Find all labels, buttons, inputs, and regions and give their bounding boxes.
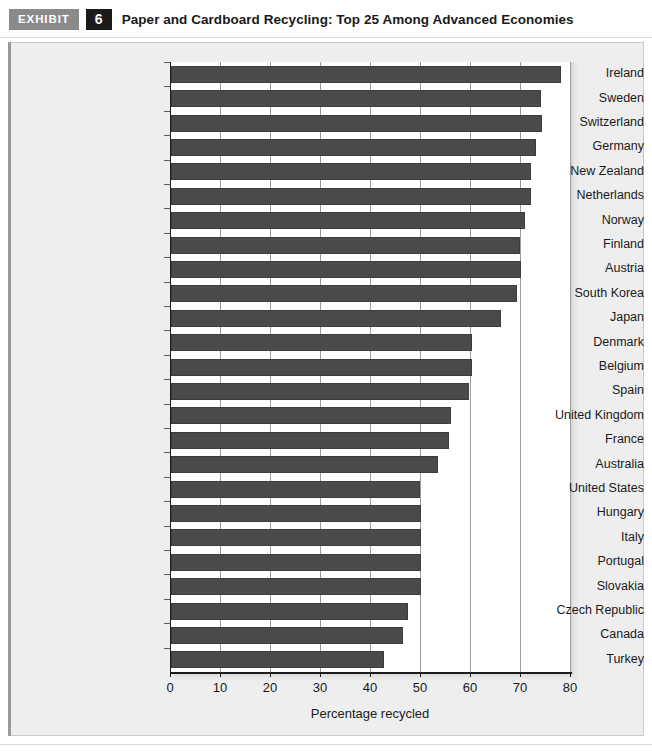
y-axis-tick (164, 160, 170, 161)
category-label: Finland (504, 237, 652, 251)
category-label: Japan (504, 310, 652, 324)
y-axis-tick (164, 379, 170, 380)
bar (171, 554, 421, 571)
x-axis-tick-label: 40 (350, 680, 390, 695)
category-label: Germany (504, 139, 652, 153)
y-axis-tick (164, 306, 170, 307)
y-axis-tick (164, 452, 170, 453)
x-axis-tick-label: 70 (500, 680, 540, 695)
bar (171, 529, 421, 546)
y-axis-tick (164, 135, 170, 136)
category-label: Sweden (504, 91, 652, 105)
category-label: Switzerland (504, 115, 652, 129)
x-axis-tick-label: 20 (250, 680, 290, 695)
category-label: Czech Republic (504, 603, 652, 617)
header-divider (0, 37, 652, 38)
bar (171, 66, 561, 83)
category-label: Australia (504, 457, 652, 471)
category-label: Hungary (504, 505, 652, 519)
bar (171, 261, 521, 278)
bar (171, 456, 438, 473)
category-label: Canada (504, 627, 652, 641)
bar (171, 285, 517, 302)
y-axis-tick (164, 355, 170, 356)
category-label: Denmark (504, 335, 652, 349)
category-label: France (504, 432, 652, 446)
category-label: Italy (504, 530, 652, 544)
y-axis-tick (164, 526, 170, 527)
bar (171, 603, 408, 620)
category-label: Portugal (504, 554, 652, 568)
category-label: Norway (504, 213, 652, 227)
y-axis-tick (164, 623, 170, 624)
y-axis-tick (164, 330, 170, 331)
y-axis-tick (164, 648, 170, 649)
bar (171, 188, 531, 205)
category-label: New Zealand (504, 164, 652, 178)
x-axis-line (170, 672, 572, 674)
category-label: Slovakia (504, 579, 652, 593)
y-axis-tick (164, 428, 170, 429)
category-label: Turkey (504, 652, 652, 666)
category-label: United States (504, 481, 652, 495)
bar (171, 578, 421, 595)
bar (171, 310, 501, 327)
footer-divider (0, 744, 652, 745)
figure-left-edge-accent (8, 42, 11, 736)
y-axis-tick (164, 404, 170, 405)
bar (171, 139, 536, 156)
bar (171, 481, 420, 498)
x-axis-title: Percentage recycled (170, 706, 570, 721)
bar (171, 334, 472, 351)
y-axis-tick (164, 62, 170, 63)
category-label: South Korea (504, 286, 652, 300)
y-axis-tick (164, 111, 170, 112)
category-label: United Kingdom (504, 408, 652, 422)
y-axis-tick (164, 184, 170, 185)
exhibit-number-badge: 6 (86, 9, 112, 30)
x-axis-tick-label: 10 (200, 680, 240, 695)
exhibit-title: Paper and Cardboard Recycling: Top 25 Am… (122, 12, 574, 27)
x-axis-tick-label: 30 (300, 680, 340, 695)
y-axis-tick (164, 86, 170, 87)
bar (171, 383, 469, 400)
category-label: Netherlands (504, 188, 652, 202)
category-label: Austria (504, 261, 652, 275)
bar (171, 90, 541, 107)
y-axis-tick (164, 208, 170, 209)
bar (171, 651, 384, 668)
bar (171, 212, 525, 229)
x-axis-tick-label: 0 (150, 680, 190, 695)
exhibit-tag-label: EXHIBIT (9, 9, 79, 30)
y-axis-tick (164, 501, 170, 502)
y-axis-tick (164, 550, 170, 551)
bar (171, 407, 451, 424)
y-axis-tick (164, 233, 170, 234)
y-axis-tick (164, 599, 170, 600)
x-axis-tick-label: 50 (400, 680, 440, 695)
bar (171, 163, 531, 180)
y-axis-tick (164, 477, 170, 478)
y-axis-tick (164, 282, 170, 283)
bar (171, 432, 449, 449)
exhibit-header: EXHIBIT 6 Paper and Cardboard Recycling:… (0, 0, 652, 38)
bar (171, 627, 403, 644)
bar (171, 359, 472, 376)
y-axis-tick (164, 257, 170, 258)
y-axis-tick (164, 574, 170, 575)
bar (171, 505, 421, 522)
category-label: Belgium (504, 359, 652, 373)
x-axis-tick-label: 80 (550, 680, 590, 695)
category-label: Spain (504, 383, 652, 397)
x-axis-tick-label: 60 (450, 680, 490, 695)
bar (171, 115, 542, 132)
category-label: Ireland (504, 66, 652, 80)
bar (171, 237, 520, 254)
